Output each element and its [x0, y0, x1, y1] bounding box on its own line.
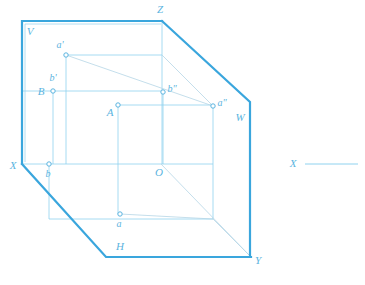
receding-lines — [22, 55, 251, 257]
marker-a-prime — [64, 53, 68, 57]
point-label-a-prime: a' — [56, 39, 64, 50]
marker-b-prime — [51, 89, 55, 93]
marker-b — [47, 162, 51, 166]
axis-label-y: Y — [255, 254, 263, 266]
point-label-b-double-prime: b" — [167, 83, 177, 94]
plane-inner-echo — [25, 24, 161, 162]
construction-lines — [22, 21, 213, 219]
point-label-b-space: B — [38, 85, 45, 97]
plane-label-h: H — [115, 240, 125, 252]
marker-b-double-prime — [161, 90, 165, 94]
marker-a-double-prime — [211, 104, 215, 108]
axis-label-o: O — [155, 166, 163, 178]
point-label-b-top: b — [46, 168, 51, 179]
outline-profile-plane — [162, 21, 250, 257]
line-z-to-adoubleprime — [162, 55, 213, 106]
axis-label-z: Z — [157, 3, 164, 15]
point-label-a-top: a — [117, 218, 122, 229]
point-label-b-prime: b' — [49, 72, 57, 83]
diagram-canvas: X V H W Z X Y O a' b' B b" A a" b a — [0, 0, 365, 285]
standalone-x-axis: X — [289, 157, 358, 169]
projection-figure: X V H W Z X Y O a' b' B b" A a" b a — [0, 0, 365, 285]
standalone-x-axis-label: X — [289, 157, 298, 169]
axis-label-x: X — [9, 159, 18, 171]
point-label-a-double-prime: a" — [217, 97, 227, 108]
plane-label-v: V — [27, 25, 35, 37]
axis-labels: Z X Y O — [9, 3, 263, 266]
line-a-to-corner — [120, 214, 213, 219]
outline-horizontal-plane — [22, 164, 251, 257]
point-label-a-space: A — [106, 106, 114, 118]
marker-a — [116, 103, 120, 107]
marker-a-top — [118, 212, 122, 216]
plane-label-w: W — [235, 111, 245, 123]
line-aprime-to-adoubleprime — [66, 55, 213, 106]
line-corner-to-y — [213, 219, 251, 257]
